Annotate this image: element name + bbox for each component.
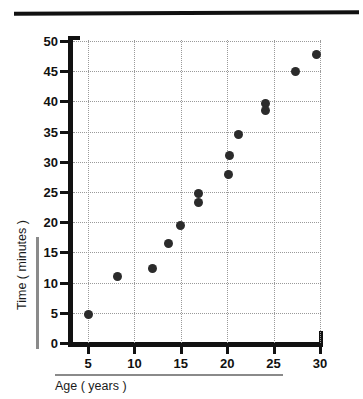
x-tick-label: 5	[73, 357, 103, 370]
y-tick-mark	[60, 312, 71, 315]
gridline-horizontal	[73, 41, 321, 42]
gridline-horizontal	[73, 101, 321, 102]
data-point	[224, 170, 233, 179]
y-tick-mark	[60, 70, 71, 73]
y-tick-label: 45	[32, 65, 58, 78]
data-point	[312, 50, 321, 59]
x-tick-mark	[319, 344, 322, 354]
y-tick-mark	[60, 251, 71, 254]
x-tick-label: 30	[305, 357, 335, 370]
y-tick-label: 30	[32, 156, 58, 169]
data-point	[194, 189, 203, 198]
y-tick-mark	[60, 161, 71, 164]
gridline-horizontal	[73, 71, 321, 72]
gridline-horizontal	[73, 283, 321, 284]
data-point	[291, 67, 300, 76]
y-tick-label: 20	[32, 216, 58, 229]
gridline-horizontal	[73, 252, 321, 253]
y-axis-title: Time ( minutes )	[15, 205, 29, 325]
x-tick-mark	[273, 344, 276, 354]
x-tick-mark	[133, 344, 136, 354]
y-tick-label: 40	[32, 95, 58, 108]
data-point	[84, 310, 93, 319]
x-axis-line	[68, 342, 323, 347]
x-tick-mark	[226, 344, 229, 354]
data-point	[164, 239, 173, 248]
data-point	[176, 221, 185, 230]
data-point	[194, 198, 203, 207]
y-axis-title-rule	[36, 237, 39, 349]
gridline-horizontal	[73, 313, 321, 314]
data-point	[225, 151, 234, 160]
y-tick-mark	[60, 342, 71, 345]
y-tick-mark	[60, 100, 71, 103]
y-tick-label: 35	[32, 126, 58, 139]
data-point	[261, 106, 270, 115]
x-axis-title-rule	[55, 374, 283, 376]
scatter-plot: 05101520253035404550 51015202530 Time ( …	[0, 0, 363, 399]
x-tick-label: 15	[166, 357, 196, 370]
x-tick-mark	[180, 344, 183, 354]
data-point	[234, 130, 243, 139]
gridline-horizontal	[73, 222, 321, 223]
y-tick-mark	[60, 131, 71, 134]
gridline-horizontal	[73, 132, 321, 133]
x-tick-mark	[87, 344, 90, 354]
y-tick-label: 50	[32, 35, 58, 48]
x-tick-label: 25	[259, 357, 289, 370]
x-tick-label: 10	[119, 357, 149, 370]
y-tick-mark	[60, 191, 71, 194]
data-point	[113, 272, 122, 281]
gridline-horizontal	[73, 162, 321, 163]
x-tick-label: 20	[212, 357, 242, 370]
y-tick-label: 25	[32, 186, 58, 199]
y-tick-mark	[60, 40, 71, 43]
y-tick-mark	[60, 221, 71, 224]
chart-page: 05101520253035404550 51015202530 Time ( …	[0, 0, 363, 399]
x-axis-title: Age ( years )	[55, 379, 127, 393]
y-tick-mark	[60, 282, 71, 285]
data-point	[148, 264, 157, 273]
